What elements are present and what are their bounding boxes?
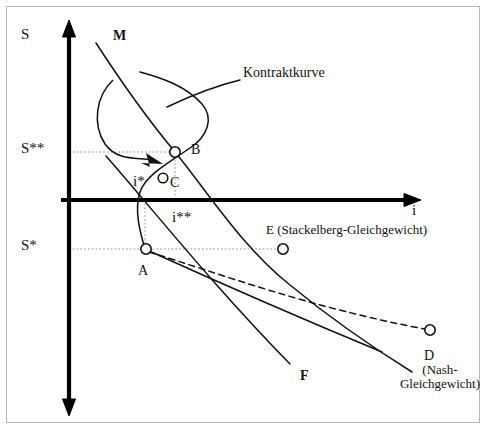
point-label-B: B — [191, 143, 200, 158]
y-tick-label-s-double-star: S** — [21, 141, 44, 157]
y-axis-label: S — [21, 27, 29, 43]
axes — [61, 20, 421, 416]
dashed-isoprofit-path — [149, 252, 430, 330]
point-A-marker — [141, 244, 151, 254]
movement-arrow — [97, 80, 152, 160]
figure-page: S i S** S* i* i** M F Kontraktkurve B C … — [0, 0, 488, 442]
x-axis-label: i — [412, 203, 416, 219]
point-label-E: E (Stackelberg-Gleichgewicht) — [266, 223, 427, 237]
y-axis-arrow-down — [63, 399, 76, 416]
x-tick-label-i-star: i* — [133, 174, 145, 190]
point-label-D-sub-line2: Gleichgewicht) — [392, 377, 488, 391]
curve-label-kontraktkurve: Kontraktkurve — [243, 66, 325, 81]
curve-label-m: M — [113, 29, 126, 44]
curve-label-f: F — [300, 369, 309, 384]
kontraktkurve-path — [96, 43, 412, 372]
figure-caption — [8, 431, 478, 442]
m-curve-upper-arm — [167, 80, 240, 107]
point-label-A: A — [138, 264, 148, 279]
y-axis-arrow-up — [63, 20, 76, 37]
point-B-marker — [170, 147, 180, 157]
movement-arrow-curve — [97, 80, 152, 160]
x-tick-label-i-double-star: i** — [172, 210, 191, 226]
y-tick-label-s-star: S* — [21, 238, 37, 254]
point-E-marker — [278, 244, 288, 254]
point-D-marker — [425, 325, 435, 335]
point-label-D-sub-line1: (Nash- — [398, 363, 482, 377]
curve-group — [96, 43, 430, 372]
movement-arrow-head — [141, 153, 163, 167]
data-points — [141, 147, 435, 335]
point-C-marker — [158, 173, 168, 183]
point-label-C: C — [170, 176, 179, 191]
